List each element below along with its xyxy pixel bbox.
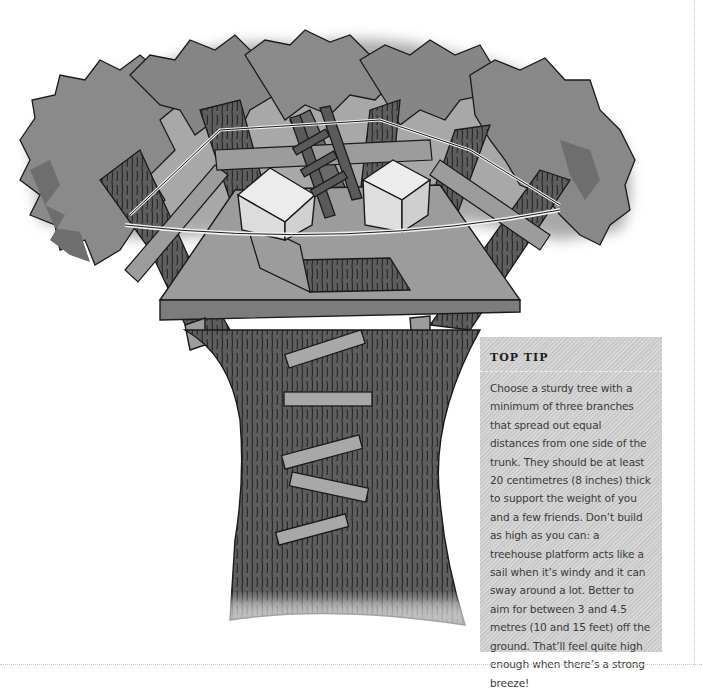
trunk-fade xyxy=(220,600,480,640)
top-tip-box: TOP TIP Choose a sturdy tree with a mini… xyxy=(480,337,662,652)
page-trim-right xyxy=(694,0,695,667)
tip-body: Choose a sturdy tree with a minimum of t… xyxy=(490,379,652,691)
tip-title: TOP TIP xyxy=(490,351,652,364)
page-trim-bottom xyxy=(0,664,702,665)
tip-divider xyxy=(480,371,662,372)
tree-trunk xyxy=(185,330,480,625)
